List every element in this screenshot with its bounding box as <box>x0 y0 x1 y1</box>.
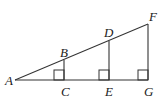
right-angle-marker-g <box>138 70 148 80</box>
point-label-e: E <box>104 84 113 99</box>
point-label-d: D <box>103 25 114 40</box>
right-angle-marker-c <box>54 70 64 80</box>
point-label-c: C <box>61 84 70 99</box>
similar-triangles-diagram: A B C D E F G <box>0 0 165 104</box>
point-label-a: A <box>4 73 13 88</box>
segment-af <box>15 24 148 80</box>
point-label-b: B <box>60 45 68 60</box>
point-label-f: F <box>148 9 158 24</box>
point-label-g: G <box>144 84 154 99</box>
right-angle-marker-e <box>99 70 109 80</box>
